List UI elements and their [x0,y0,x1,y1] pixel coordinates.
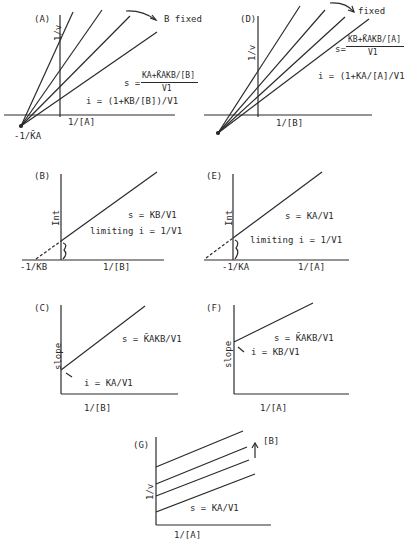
panel-a-label: (A) [34,14,50,24]
panel-b-x-label: 1/[B] [103,262,130,272]
panel-d-slope-prefix: s= [335,44,346,54]
panel-a-slope-den: V1 [162,84,172,94]
panel-f-intercept-eq: i = KB/V1 [251,347,300,357]
panel-e-limit-eq: limiting i = 1/V1 [250,235,342,245]
panel-e-slope-eq: s = KA/V1 [285,211,334,221]
panel-d-slope-num: KB+K̄AKB/[A] [348,35,401,45]
panel-c-intercept-eq: i = KA/V1 [84,378,133,388]
panel-a-slope-prefix: s = [124,78,140,88]
panel-b-brace [63,243,66,259]
panel-a-slope-num: KA+K̄AKB/[B] [142,71,195,81]
panel-f-y-label: slope [223,341,233,368]
panel-a-line-3 [21,16,130,126]
panel-e-line [233,172,322,238]
panel-a-intercept-label: -1/K̄A [14,131,41,141]
panel-b-slope-eq: s = KB/V1 [128,210,177,220]
panel-b-y-label: Int [51,210,61,226]
panel-g-label: (G) [133,440,149,450]
panel-e-extrapolation [206,238,233,258]
panel-f-label: (F) [206,303,222,313]
panel-b-limit-eq: limiting i = 1/V1 [90,226,182,236]
panel-f-x-label: 1/[A] [260,403,287,413]
panel-e-brace [235,240,238,259]
panel-g-y-label: 1/v [145,484,155,500]
panel-d-x-label: 1/[B] [276,118,303,128]
panel-g-x-label: 1/[A] [174,530,201,540]
panel-a-y-label: 1/v [53,25,63,41]
panel-a-line-1 [21,12,73,126]
panel-e-x-label: 1/[A] [298,262,325,272]
panel-e-intercept-label: -1/KA [222,262,249,272]
panel-a-fraction-bar [141,82,198,83]
panel-d-fraction-bar [346,46,404,47]
panel-d-intercept-eq: i = (1+KA/[A]/V1 [318,71,405,81]
panel-e-y-label: Int [224,210,234,226]
panel-f-slope-eq: s = K̄AKB/V1 [274,333,334,343]
panel-c-y-label: slope [53,343,63,370]
panel-a-plot [4,10,175,128]
panel-g-slope-eq: s = KA/V1 [190,503,239,513]
panel-b-label: (B) [34,171,50,181]
panel-e-label: (E) [206,171,222,181]
panel-a-intercept-eq: i = (1+KB/[B])/V1 [86,96,178,106]
diagram-canvas [0,0,408,543]
panel-d-plot [204,3,372,135]
panel-a-x-label: 1/[A] [68,117,95,127]
panel-d-y-label: 1/v [247,45,257,61]
panel-d-label: (D) [240,14,256,24]
panel-c-x-label: 1/[B] [84,403,111,413]
panel-d-slope-den: V1 [368,48,378,58]
panel-g-annotation: [B] [263,436,279,446]
panel-b-intercept-label: -1/KB [20,262,47,272]
panel-c-label: (C) [34,303,50,313]
panel-c-slope-eq: s = K̄AKB/V1 [122,334,182,344]
panel-a-annotation: B fixed [164,14,202,24]
panel-g-line-1 [156,431,243,467]
panel-b-extrapolation [36,241,61,259]
panel-f-pointer [238,347,244,352]
panel-c-pointer [66,373,72,377]
panel-d-annotation: fixed [358,6,385,16]
